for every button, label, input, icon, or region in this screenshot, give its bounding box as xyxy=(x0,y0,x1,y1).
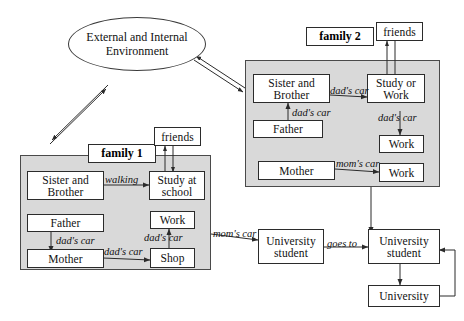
edge-env-to-family1 xyxy=(52,85,108,140)
node-sister-brother-f1: Sister and Brother xyxy=(27,171,104,200)
label-dads-car-father-mother-f1: dad's car xyxy=(56,235,95,246)
label-moms-car-mother-work-f2: mom's car xyxy=(336,158,379,169)
label-goes-to: goes to xyxy=(327,238,357,249)
family2-title-label: family 2 xyxy=(319,29,361,44)
node-sister-brother-f2: Sister and Brother xyxy=(253,74,330,103)
node-work-right-f2: Work xyxy=(379,135,424,153)
label-dads-car-father-sb-f2: dad's car xyxy=(292,107,331,118)
node-friends-f2: friends xyxy=(376,22,423,41)
label-dads-car-shop-work-f1: dad's car xyxy=(144,232,183,243)
family1-title-label: family 1 xyxy=(101,146,143,161)
node-mother-f2: Mother xyxy=(258,161,335,180)
label-dads-car-study-work-f2: dad's car xyxy=(378,112,417,123)
label-dads-car-mother-shop-f1: dad's car xyxy=(104,246,143,257)
node-shop-f1: Shop xyxy=(150,248,195,268)
node-father-f1: Father xyxy=(27,214,104,232)
label-moms-car-outer: mom's car xyxy=(213,228,256,239)
environment-label: External and Internal Environment xyxy=(69,30,205,58)
node-work-f1: Work xyxy=(150,211,195,229)
node-father-f2: Father xyxy=(253,120,323,138)
edge-university-feedback xyxy=(439,250,455,296)
label-dads-car-sb-study-f2: dad's car xyxy=(330,85,369,96)
node-study-or-work-f2: Study or Work xyxy=(367,74,425,103)
node-study-at-school-f1: Study at school xyxy=(149,171,205,200)
node-friends-f1: friends xyxy=(154,127,201,146)
node-university: University xyxy=(368,285,440,307)
edge-family2-to-env xyxy=(194,60,243,92)
environment-ellipse: External and Internal Environment xyxy=(68,17,206,71)
node-university-student-right: University student xyxy=(368,229,440,264)
node-mother-f1: Mother xyxy=(27,249,104,268)
diagram-canvas: External and Internal Environment family… xyxy=(0,0,464,321)
edge-env-to-family2 xyxy=(196,56,245,88)
edge-family1-to-env xyxy=(50,89,106,144)
family2-title: family 2 xyxy=(306,27,374,46)
family1-title: family 1 xyxy=(88,144,156,163)
node-work-bottom-f2: Work xyxy=(379,163,424,182)
label-walking: walking xyxy=(105,174,138,185)
node-university-student-left: University student xyxy=(258,229,324,264)
